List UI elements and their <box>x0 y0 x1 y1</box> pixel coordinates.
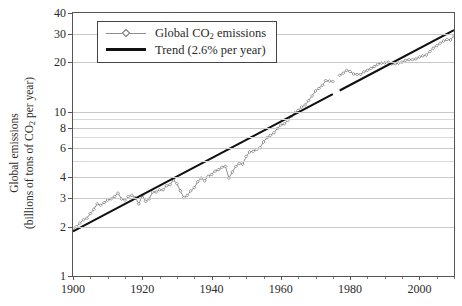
legend-entry-trend: Trend (2.6% per year) <box>104 42 266 58</box>
gridline <box>73 148 454 149</box>
gridline <box>73 227 454 228</box>
chart-figure: Global emissions (billions of tons of CO… <box>0 0 462 306</box>
gridline <box>73 137 454 138</box>
plot-area: Global CO2 emissions Trend (2.6% per yea… <box>72 12 455 277</box>
gridline <box>73 128 454 129</box>
y-tick-label: 3 <box>32 192 66 204</box>
gridline <box>73 119 454 120</box>
y-tick-label: 30 <box>32 28 66 40</box>
y-tick-label: 20 <box>32 56 66 68</box>
y-tick-label: 8 <box>32 122 66 134</box>
legend-entry-emissions: Global CO2 emissions <box>104 26 266 42</box>
x-tick-label: 1920 <box>117 283 167 295</box>
x-tick-label: 1980 <box>325 283 375 295</box>
gridline <box>73 177 454 178</box>
x-tick-label: 1960 <box>256 283 306 295</box>
y-tick-label: 10 <box>32 106 66 118</box>
y-tick-label: 2 <box>32 221 66 233</box>
legend-label-emissions: Global CO2 emissions <box>155 26 266 41</box>
y-tick-label: 40 <box>32 7 66 19</box>
x-tick-label: 1940 <box>187 283 237 295</box>
legend-swatch-trend <box>104 43 148 57</box>
y-tick-label: 4 <box>32 171 66 183</box>
chart-legend: Global CO2 emissions Trend (2.6% per yea… <box>97 21 277 63</box>
y-tick-label: 1 <box>32 270 66 282</box>
x-tick-label: 2000 <box>394 283 444 295</box>
y-axis-title-line1: Global emissions <box>7 77 22 229</box>
legend-swatch-emissions <box>104 27 148 41</box>
y-tick-label: 6 <box>32 142 66 154</box>
gridline <box>73 161 454 162</box>
gridline <box>73 112 454 113</box>
x-tick-label: 1900 <box>48 283 98 295</box>
legend-label-trend: Trend (2.6% per year) <box>155 43 266 58</box>
gridline <box>73 198 454 199</box>
